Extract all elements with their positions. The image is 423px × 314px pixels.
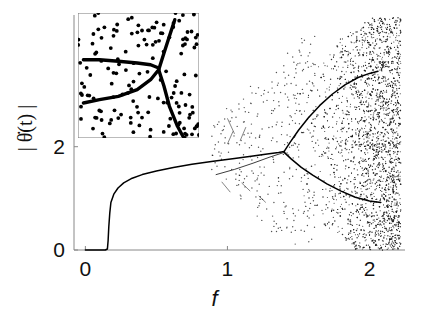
data-point xyxy=(299,62,300,63)
data-point xyxy=(357,234,358,235)
data-point xyxy=(376,145,377,146)
inset-data-point xyxy=(129,116,133,120)
inset-data-point xyxy=(109,46,113,50)
data-point xyxy=(365,189,367,191)
data-point xyxy=(369,59,370,60)
data-point xyxy=(398,35,399,36)
data-point xyxy=(398,114,399,115)
data-point xyxy=(269,186,270,187)
data-point xyxy=(292,208,293,209)
data-point xyxy=(391,61,392,62)
data-point xyxy=(337,165,338,166)
data-point xyxy=(266,208,267,209)
data-point xyxy=(377,96,379,98)
data-point xyxy=(383,146,384,147)
data-point xyxy=(295,215,296,216)
data-point xyxy=(387,231,389,233)
data-point xyxy=(389,52,390,53)
data-point xyxy=(218,151,219,152)
data-point xyxy=(357,31,358,32)
data-point xyxy=(365,62,366,63)
data-point xyxy=(255,196,256,197)
data-point xyxy=(350,72,352,74)
data-point xyxy=(396,159,397,160)
data-point xyxy=(338,105,339,106)
inset-data-point xyxy=(182,126,186,130)
data-point xyxy=(334,174,335,175)
data-point xyxy=(343,118,344,119)
data-point xyxy=(243,154,244,155)
data-point xyxy=(390,239,391,240)
data-point xyxy=(344,190,345,191)
data-point xyxy=(371,27,373,29)
data-point xyxy=(301,132,302,133)
data-point xyxy=(380,171,381,172)
data-point xyxy=(330,188,331,189)
data-point xyxy=(238,108,239,109)
inset-data-point xyxy=(138,124,142,128)
data-point xyxy=(235,173,236,174)
data-point xyxy=(371,110,372,111)
data-point xyxy=(382,120,383,121)
data-point xyxy=(278,105,279,106)
data-point xyxy=(389,99,390,100)
data-point xyxy=(371,232,373,234)
data-point xyxy=(360,195,361,196)
data-point xyxy=(389,123,390,124)
data-point xyxy=(359,49,360,50)
data-point xyxy=(273,162,274,163)
data-point xyxy=(307,210,308,211)
data-point xyxy=(364,233,365,234)
data-point xyxy=(259,199,260,200)
data-point xyxy=(331,190,332,191)
inset-data-point xyxy=(101,132,105,136)
data-point xyxy=(339,192,341,194)
data-point xyxy=(386,39,388,41)
data-point xyxy=(385,187,386,188)
data-point xyxy=(327,120,328,121)
data-point xyxy=(398,66,399,67)
data-point xyxy=(377,116,378,117)
data-point xyxy=(384,235,385,236)
data-point xyxy=(384,226,385,227)
data-point xyxy=(398,224,399,225)
data-point xyxy=(390,194,391,195)
data-point xyxy=(398,215,399,216)
data-point xyxy=(325,225,327,227)
data-point xyxy=(367,92,368,93)
data-point xyxy=(385,222,386,223)
data-point xyxy=(327,66,328,67)
data-point xyxy=(388,210,389,211)
data-point xyxy=(379,165,380,166)
data-point xyxy=(390,245,391,246)
data-point xyxy=(339,181,340,182)
data-point xyxy=(286,152,287,153)
data-point xyxy=(308,217,309,218)
data-point xyxy=(360,220,361,221)
data-point xyxy=(246,176,247,177)
data-point xyxy=(324,224,325,225)
data-point xyxy=(351,215,352,216)
data-point xyxy=(298,149,299,150)
data-point xyxy=(358,66,360,68)
data-point xyxy=(395,162,396,163)
data-point xyxy=(295,85,296,86)
data-point xyxy=(364,146,365,147)
data-point xyxy=(367,215,369,217)
data-point xyxy=(330,158,331,159)
data-point xyxy=(366,67,368,69)
data-point xyxy=(372,88,374,90)
data-point xyxy=(383,52,385,54)
inset-data-point xyxy=(132,80,136,84)
data-point xyxy=(380,53,381,54)
data-point xyxy=(386,51,387,52)
data-point xyxy=(296,64,297,65)
data-point xyxy=(384,62,386,64)
data-point xyxy=(391,130,392,131)
data-point xyxy=(357,187,358,188)
data-point xyxy=(366,119,367,120)
inset-data-point xyxy=(127,84,131,88)
data-point xyxy=(295,68,296,69)
data-point xyxy=(303,132,304,133)
data-point xyxy=(333,199,334,200)
